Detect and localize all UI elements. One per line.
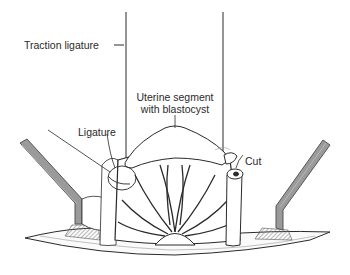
exposed-tissue-right bbox=[255, 228, 292, 240]
label-ligature: Ligature bbox=[78, 126, 116, 138]
left-retractor bbox=[20, 139, 82, 224]
right-retractor bbox=[276, 140, 330, 230]
label-cut: Cut bbox=[245, 155, 261, 167]
surgical-diagram: Traction ligature Uterine segment with b… bbox=[0, 0, 350, 275]
label-traction-ligature: Traction ligature bbox=[24, 39, 99, 51]
label-uterine-segment-line1: Uterine segment bbox=[128, 91, 222, 103]
label-uterine-segment-line2: with blastocyst bbox=[128, 103, 222, 115]
